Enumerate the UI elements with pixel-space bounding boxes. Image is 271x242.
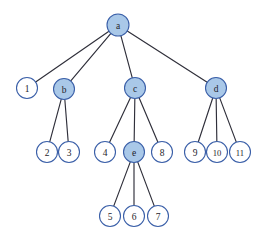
node-label-8: 8 [160, 148, 165, 158]
node-label-9: 9 [193, 148, 198, 158]
tree-node-d[interactable]: d [206, 78, 227, 99]
node-label-2: 2 [45, 148, 50, 158]
node-label-7: 7 [156, 212, 161, 222]
tree-edge-c-8 [139, 98, 158, 143]
tree-edge-d-11 [220, 98, 237, 142]
tree-edge-c-e [134, 99, 135, 142]
node-label-6: 6 [132, 212, 137, 222]
tree-edge-a-1 [36, 31, 109, 82]
edge-group [36, 31, 237, 206]
tree-edge-e-5 [114, 162, 131, 206]
tree-node-6[interactable]: 6 [124, 206, 145, 227]
tree-graphic: a1bcd234e891011567 [0, 0, 271, 242]
tree-node-3[interactable]: 3 [59, 142, 80, 163]
tree-node-2[interactable]: 2 [37, 142, 58, 163]
tree-diagram: a1bcd234e891011567 [0, 0, 271, 242]
tree-node-1[interactable]: 1 [17, 78, 38, 99]
tree-node-5[interactable]: 5 [100, 206, 121, 227]
tree-edge-a-c [121, 36, 132, 78]
node-label-1: 1 [25, 84, 30, 94]
node-label-e: e [132, 148, 136, 158]
node-label-10: 10 [213, 148, 222, 158]
tree-node-11[interactable]: 11 [230, 142, 251, 163]
tree-node-7[interactable]: 7 [148, 206, 169, 227]
tree-node-9[interactable]: 9 [185, 142, 206, 163]
figure-caption [0, 232, 271, 242]
tree-edge-d-9 [198, 98, 212, 142]
tree-edge-b-3 [65, 99, 68, 141]
node-label-d: d [214, 84, 219, 94]
tree-node-8[interactable]: 8 [152, 142, 173, 163]
node-label-3: 3 [67, 148, 72, 158]
tree-edge-a-d [127, 31, 207, 82]
tree-node-e[interactable]: e [124, 142, 145, 163]
node-label-c: c [133, 84, 137, 94]
tree-node-a[interactable]: a [107, 14, 129, 36]
tree-edge-a-b [71, 33, 111, 81]
tree-node-b[interactable]: b [54, 79, 75, 100]
tree-node-4[interactable]: 4 [95, 142, 116, 163]
node-label-11: 11 [236, 148, 244, 158]
node-label-b: b [62, 85, 67, 95]
tree-edge-e-7 [138, 162, 155, 206]
node-label-5: 5 [108, 212, 113, 222]
tree-edge-b-2 [50, 99, 62, 142]
tree-edge-c-4 [109, 98, 130, 143]
node-label-4: 4 [103, 148, 108, 158]
tree-node-10[interactable]: 10 [207, 142, 228, 163]
tree-edge-d-10 [216, 99, 217, 142]
tree-node-c[interactable]: c [125, 78, 146, 99]
